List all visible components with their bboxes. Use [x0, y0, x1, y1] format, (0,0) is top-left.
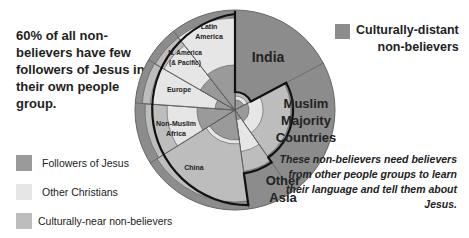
legend-other-christians: Other Christians	[16, 184, 118, 200]
legend-label: non-believers	[356, 39, 459, 56]
label-muslim-majority: MuslimMajorityCountries	[276, 96, 337, 145]
legend-culturally-distant: Culturally-distant non-believers	[335, 22, 459, 56]
legend-culturally-near: Culturally-near non-believers	[16, 213, 172, 229]
explanatory-note: These non-believers need believers from …	[267, 152, 457, 212]
swatch-culturally-near	[16, 213, 32, 229]
label-europe: Europe	[167, 86, 191, 94]
legend-followers: Followers of Jesus	[16, 155, 129, 171]
swatch-other-christians	[16, 184, 32, 200]
legend-label: Culturally-near non-believers	[38, 215, 172, 227]
swatch-culturally-distant	[335, 24, 350, 39]
label-china: China	[184, 164, 204, 171]
legend-label: Other Christians	[42, 186, 118, 198]
swatch-followers	[16, 155, 32, 171]
legend-label: Followers of Jesus	[42, 157, 129, 169]
label-india: India	[252, 49, 285, 65]
legend-label: Culturally-distant	[356, 22, 459, 39]
